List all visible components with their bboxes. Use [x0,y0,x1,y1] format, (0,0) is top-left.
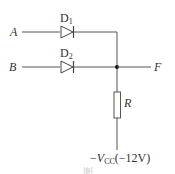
supply-label: −VCC(−12V) [90,151,150,166]
input-a-label: A [9,25,18,39]
diode-d2-label: D2 [60,46,73,61]
output-f-label: F [153,60,162,74]
resistor-r-icon [114,92,121,118]
figure-caption-partial: 图 [0,167,175,174]
diode-d1-label: D1 [60,11,73,26]
diode-or-circuit: A D1 B D2 F R −VCC(−12V) [0,0,175,174]
d1-to-node-wire [74,32,117,92]
diode-d2-icon [61,61,74,73]
resistor-r-label: R [123,96,132,110]
diode-d1-icon [61,26,74,38]
input-b-label: B [9,60,17,74]
